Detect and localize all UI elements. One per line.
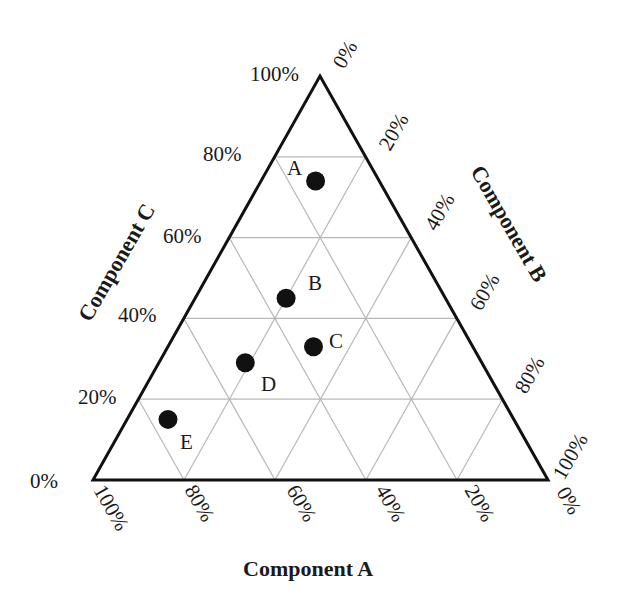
b-tick-60: 60%	[465, 269, 505, 314]
data-points	[159, 172, 326, 429]
data-point-d	[236, 353, 255, 372]
data-point-c	[304, 337, 323, 356]
axis-title-b: Component B	[466, 161, 553, 287]
point-label-b: B	[308, 271, 322, 295]
gridline-a	[138, 399, 184, 480]
c-tick-0: 0%	[30, 469, 58, 493]
data-point-a	[306, 172, 325, 191]
b-tick-80: 80%	[510, 352, 550, 397]
data-point-e	[159, 410, 178, 429]
point-label-a: A	[287, 156, 303, 180]
a-tick-0: 0%	[552, 483, 587, 519]
b-tick-20: 20%	[374, 109, 414, 154]
c-tick-100: 100%	[250, 62, 299, 86]
a-tick-40: 40%	[371, 481, 411, 526]
a-tick-80: 80%	[180, 481, 220, 526]
gridline-b	[275, 238, 411, 480]
data-point-b	[277, 289, 296, 308]
gridline-b	[457, 399, 502, 480]
point-label-d: D	[261, 372, 276, 396]
a-tick-100: 100%	[89, 481, 134, 535]
c-tick-60: 60%	[163, 224, 202, 248]
c-tick-20: 20%	[78, 385, 117, 409]
ternary-diagram: 0% 20% 40% 60% 80% 100% 0% 20% 40% 60% 8…	[0, 0, 620, 609]
c-tick-80: 80%	[203, 142, 242, 166]
a-tick-60: 60%	[282, 481, 322, 526]
point-label-c: C	[329, 329, 343, 353]
c-tick-40: 40%	[118, 303, 157, 327]
b-tick-100: 100%	[548, 429, 593, 483]
point-label-e: E	[180, 430, 193, 454]
axis-title-a: Component A	[243, 556, 373, 581]
a-tick-20: 20%	[460, 481, 500, 526]
b-tick-40: 40%	[420, 189, 460, 234]
b-tick-0: 0%	[328, 36, 363, 72]
